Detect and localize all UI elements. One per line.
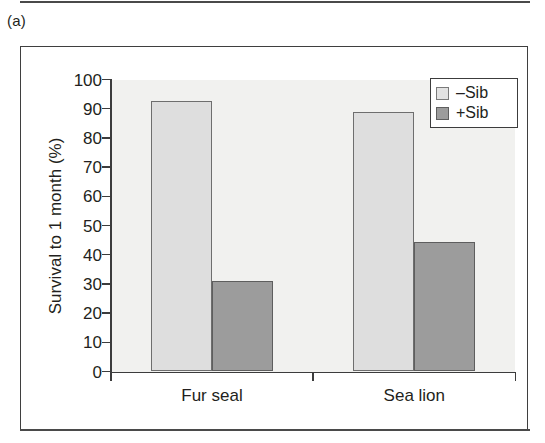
y-tick-mark <box>102 312 110 314</box>
y-tick-label: 70 <box>56 159 102 176</box>
y-tick-mark <box>102 196 110 198</box>
y-tick-label: 60 <box>56 188 102 205</box>
y-tick-mark <box>102 79 110 81</box>
y-tick-mark <box>102 371 110 373</box>
legend-label-plus-sib: +Sib <box>456 105 488 121</box>
y-tick-mark <box>102 342 110 344</box>
x-tick-mark <box>110 372 112 381</box>
y-tick-mark <box>102 254 110 256</box>
y-tick-label: 20 <box>56 305 102 322</box>
y-tick-label: 0 <box>56 363 102 380</box>
bar-sea-lion-minus-sib <box>353 112 414 372</box>
y-tick-mark <box>102 283 110 285</box>
y-tick-label: 100 <box>56 71 102 88</box>
bar-sea-lion-plus-sib <box>414 242 475 372</box>
y-tick-mark <box>102 108 110 110</box>
y-tick-label: 90 <box>56 100 102 117</box>
y-tick-label: 50 <box>56 217 102 234</box>
y-tick-mark <box>102 225 110 227</box>
page-bottom-rule <box>20 429 530 431</box>
y-tick-label: 10 <box>56 334 102 351</box>
x-tick-mark <box>312 372 314 381</box>
y-tick-label: 80 <box>56 129 102 146</box>
x-tick-mark <box>515 372 517 381</box>
x-axis-category-label: Sea lion <box>384 386 445 406</box>
bar-fur-seal-plus-sib <box>212 281 273 372</box>
panel-label: (a) <box>7 12 26 29</box>
page-top-rule <box>20 1 530 3</box>
y-tick-label: 30 <box>56 275 102 292</box>
legend-item-minus-sib: –Sib <box>436 83 512 103</box>
x-axis-line <box>110 372 516 374</box>
legend: –Sib +Sib <box>430 78 518 128</box>
bar-fur-seal-minus-sib <box>151 101 212 371</box>
legend-swatch-plus-sib-icon <box>436 107 449 120</box>
x-axis-category-label: Fur seal <box>181 386 242 406</box>
legend-label-minus-sib: –Sib <box>456 85 488 101</box>
legend-swatch-minus-sib-icon <box>436 87 449 100</box>
legend-item-plus-sib: +Sib <box>436 103 512 123</box>
y-tick-mark <box>102 166 110 168</box>
y-tick-label: 40 <box>56 246 102 263</box>
y-tick-mark <box>102 137 110 139</box>
y-axis-line <box>110 79 112 373</box>
